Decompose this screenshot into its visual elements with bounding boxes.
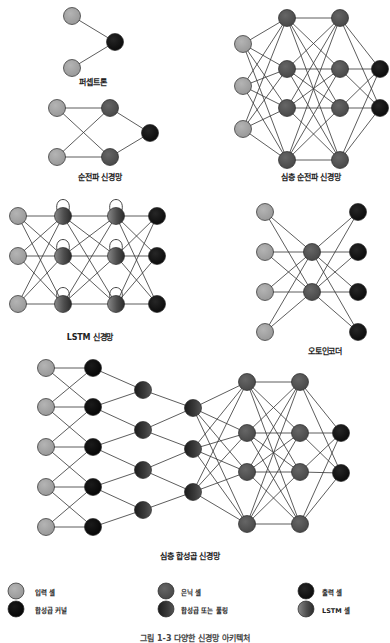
figure-lstm [10, 208, 166, 313]
kernel-cell-node [85, 360, 102, 377]
kernel-cell-node [85, 479, 102, 496]
legend-swatch-lstm [298, 601, 314, 617]
hidden-cell-node [292, 516, 309, 533]
input-cell-node [49, 149, 66, 166]
hidden-cell-node [102, 100, 119, 117]
legend-label-input: 입력 셀 [35, 587, 55, 597]
hidden-cell-node [292, 374, 309, 391]
hidden-cell-node [304, 244, 321, 261]
pool-cell-node [185, 484, 202, 501]
hidden-cell-node [304, 284, 321, 301]
legend-label-kernel: 합성곱 커널 [35, 605, 67, 615]
legend-label-output: 출력 셀 [322, 587, 342, 597]
input-cell-node [257, 284, 274, 301]
output-cell-node [350, 244, 367, 261]
label-feed-forward: 순전파 신경망 [78, 171, 121, 182]
input-cell-node [38, 360, 55, 377]
hidden-cell-node [279, 152, 296, 169]
network-nodes [10, 8, 389, 536]
lstm-cell-node [55, 296, 72, 313]
hidden-cell-node [292, 425, 309, 442]
figure-deep-feed-forward [235, 10, 389, 169]
input-cell-node [38, 439, 55, 456]
output-cell-node [142, 125, 159, 142]
input-cell-node [257, 244, 274, 261]
figure-caption: 그림 1-3 다양한 신경망 아키텍처 [140, 632, 250, 643]
hidden-cell-node [239, 425, 256, 442]
label-perceptron: 퍼셉트론 [79, 76, 106, 87]
hidden-cell-node [239, 516, 256, 533]
hidden-cell-node [239, 464, 256, 481]
legend-swatch-output [298, 583, 314, 599]
label-lstm: LSTM 신경망 [67, 331, 113, 342]
output-cell-node [107, 34, 124, 51]
input-cell-node [10, 296, 27, 313]
output-cell-node [350, 204, 367, 221]
legend-swatch-kernel [8, 601, 24, 617]
output-cell-node [149, 296, 166, 313]
input-cell-node [38, 519, 55, 536]
input-cell-node [235, 36, 252, 53]
lstm-cell-node [108, 296, 125, 313]
input-cell-node [235, 121, 252, 138]
lstm-cell-node [55, 208, 72, 225]
input-cell-node [10, 248, 27, 265]
hidden-cell-node [279, 100, 296, 117]
input-cell-node [49, 100, 66, 117]
pool-cell-node [135, 382, 152, 399]
legend-label-lstm: LSTM 셀 [322, 605, 350, 615]
output-cell-node [350, 284, 367, 301]
output-cell-node [372, 100, 389, 117]
input-cell-node [38, 399, 55, 416]
hidden-cell-node [279, 61, 296, 78]
hidden-cell-node [332, 100, 349, 117]
figure-autoencoder [257, 204, 367, 341]
legend-label-pool: 합성곱 또는 풀링 [181, 605, 228, 615]
output-cell-node [333, 465, 350, 482]
lstm-cell-node [108, 248, 125, 265]
legend-swatch-hidden [158, 583, 174, 599]
hidden-cell-node [102, 149, 119, 166]
input-cell-node [257, 204, 274, 221]
kernel-cell-node [85, 439, 102, 456]
output-cell-node [149, 208, 166, 225]
legend-label-hidden: 은닉 셀 [181, 587, 201, 597]
legend-swatch-input [8, 583, 24, 599]
input-cell-node [38, 479, 55, 496]
figure-deep-convolutional [38, 360, 350, 536]
hidden-cell-node [239, 374, 256, 391]
output-cell-node [333, 425, 350, 442]
input-cell-node [235, 78, 252, 95]
pool-cell-node [135, 462, 152, 479]
kernel-cell-node [85, 399, 102, 416]
kernel-cell-node [85, 519, 102, 536]
output-cell-node [372, 61, 389, 78]
lstm-cell-node [55, 248, 72, 265]
label-deep-feed-forward: 심층 순전파 신경망 [281, 171, 341, 182]
output-cell-node [350, 324, 367, 341]
figure-feed-forward [49, 100, 159, 166]
input-cell-node [257, 324, 274, 341]
legend-swatch-pool [158, 601, 174, 617]
input-cell-node [64, 8, 81, 25]
hidden-cell-node [292, 464, 309, 481]
pool-cell-node [185, 441, 202, 458]
label-autoencoder: 오토인코더 [308, 345, 342, 356]
hidden-cell-node [332, 61, 349, 78]
pool-cell-node [135, 502, 152, 519]
hidden-cell-node [332, 10, 349, 27]
input-cell-node [64, 60, 81, 77]
output-cell-node [149, 248, 166, 265]
hidden-cell-node [279, 10, 296, 27]
figure-perceptron [64, 8, 124, 77]
pool-cell-node [135, 422, 152, 439]
hidden-cell-node [332, 152, 349, 169]
lstm-cell-node [108, 208, 125, 225]
pool-cell-node [185, 400, 202, 417]
label-deep-convolutional: 심층 합성곱 신경망 [160, 550, 220, 561]
input-cell-node [10, 208, 27, 225]
